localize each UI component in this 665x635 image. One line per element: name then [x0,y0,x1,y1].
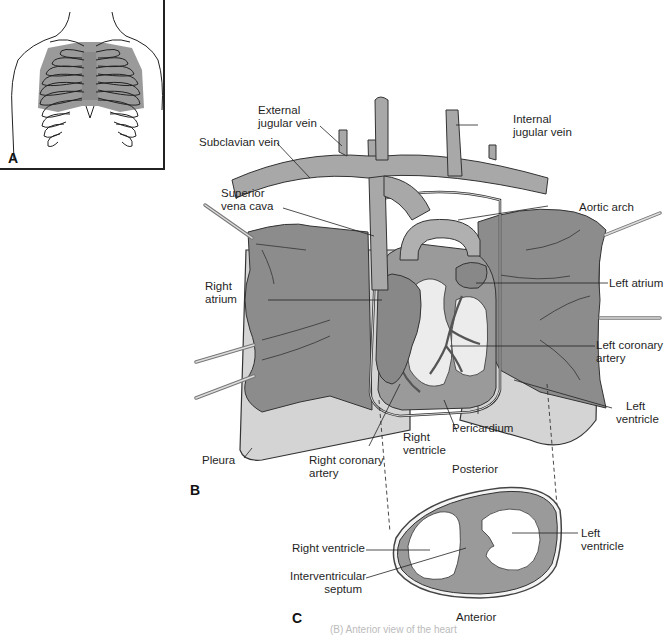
label-left-coronary-artery-line2: artery [596,352,625,365]
label-right-atrium-line2: atrium [205,293,237,306]
label-subclavian-vein: Subclavian vein [199,136,280,149]
label-aortic-arch: Aortic arch [579,201,634,214]
label-internal-jugular-vein-line2: jugular vein [513,126,572,139]
label-anterior: Anterior [456,611,496,624]
label-left-atrium: Left atrium [609,277,663,290]
label-interventricular-septum-line1: Interventricular [290,570,362,583]
label-external-jugular-vein-line2: jugular vein [258,117,317,130]
label-superior-vena-cava-line1: Superior [221,187,264,200]
label-posterior: Posterior [452,463,498,476]
label-interventricular-septum-line2: septum [290,583,362,596]
label-right-coronary-artery-line1: Right coronary [309,454,384,467]
label-left-ventricle-line2: ventricle [616,413,659,426]
label-right-atrium-line1: Right [205,280,232,293]
figure-caption-fragment: (B) Anterior view of the heart [330,624,457,635]
label-superior-vena-cava-line2: vena cava [221,200,273,213]
label-left-ventricle-line1: Left [626,400,645,413]
right-lung [245,224,372,412]
panel-c-letter: C [292,610,302,626]
label-right-ventricle-line2: ventricle [403,444,446,457]
label-right-coronary-artery-line2: artery [309,467,338,480]
label-pleura: Pleura [202,454,235,467]
panel-b-letter: B [190,482,200,498]
label-right-ventricle-line1: Right [403,431,430,444]
label-left-coronary-artery-line1: Left coronary [596,339,663,352]
label-c-left-ventricle-line2: ventricle [581,540,624,553]
label-pericardium: Pericardium [452,422,513,435]
label-c-left-ventricle-line1: Left [581,527,600,540]
label-internal-jugular-vein-line1: Internal [513,113,551,126]
label-c-right-ventricle: Right ventricle [292,542,365,555]
label-external-jugular-vein-line1: External [258,104,300,117]
